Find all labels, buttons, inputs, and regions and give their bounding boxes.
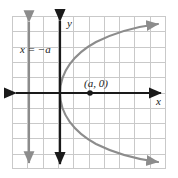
x-axis-label: x bbox=[155, 95, 161, 107]
graph-figure: y x x = −a (a, 0) bbox=[0, 0, 178, 178]
directrix-label: x = −a bbox=[19, 43, 51, 55]
point-a-zero-label: (a, 0) bbox=[84, 77, 108, 90]
point-a-zero-marker bbox=[87, 90, 93, 96]
y-axis-label: y bbox=[66, 17, 72, 29]
coordinate-plane-svg: y x x = −a (a, 0) bbox=[0, 0, 178, 178]
parabola-upper-branch bbox=[60, 24, 158, 93]
parabola-lower-branch bbox=[60, 93, 158, 162]
